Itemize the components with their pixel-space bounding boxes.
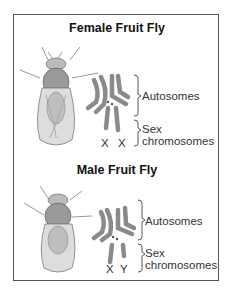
female-autosomes-label: Autosomes bbox=[142, 90, 200, 102]
female-autosomes-bracket bbox=[134, 75, 141, 116]
male-sex-label-line2: chromosomes bbox=[145, 259, 217, 271]
female-fly-icon bbox=[20, 47, 98, 145]
male-title: Male Fruit Fly bbox=[0, 163, 234, 177]
female-sex-bracket bbox=[134, 120, 141, 146]
male-sex-chromosome-x: X bbox=[106, 263, 114, 275]
male-sex-bracket bbox=[138, 244, 145, 272]
male-autosomes-label: Autosomes bbox=[145, 215, 203, 227]
male-autosomes-bracket bbox=[138, 200, 145, 240]
male-autosomes-icon bbox=[94, 208, 134, 240]
female-sex-chromosome-2: X bbox=[118, 137, 126, 149]
male-x-chromosome-icon bbox=[110, 245, 112, 262]
female-sex-label-line1: Sex bbox=[142, 123, 162, 135]
male-fly-icon bbox=[24, 186, 92, 272]
male-sex-chromosome-y: Y bbox=[120, 263, 128, 275]
male-y-chromosome-icon bbox=[123, 245, 124, 256]
male-sex-label-line1: Sex bbox=[145, 247, 165, 259]
diagram-drawings bbox=[0, 0, 234, 297]
female-sex-chromosome-1: X bbox=[101, 137, 109, 149]
female-sex-label-line2: chromosomes bbox=[142, 135, 214, 147]
